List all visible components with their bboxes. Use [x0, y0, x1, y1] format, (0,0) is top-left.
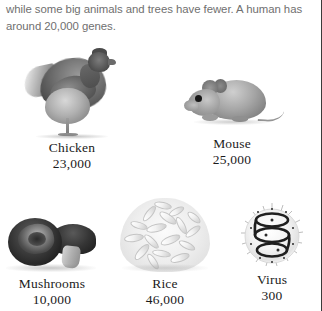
rice-photo	[116, 194, 214, 276]
figure-item-mouse: Mouse 25,000	[180, 70, 284, 167]
figure-item-virus: Virus 300	[236, 200, 308, 303]
figure-item-rice: Rice 46,000	[116, 194, 214, 307]
mushrooms-value: 10,000	[4, 292, 100, 308]
chicken-beak	[108, 59, 116, 65]
rice-label: Rice	[116, 276, 214, 292]
virus-value: 300	[236, 288, 308, 304]
mouse-photo	[180, 70, 284, 136]
rice-shadow	[122, 264, 208, 272]
chicken-shadow	[36, 134, 108, 139]
figure-item-mushrooms: Mushrooms 10,000	[4, 206, 100, 307]
mouse-shadow	[194, 119, 270, 125]
rice-value: 46,000	[116, 292, 214, 308]
mouse-snout	[184, 100, 198, 111]
body-paragraph: while some big animals and trees have fe…	[6, 1, 306, 34]
mouse-value: 25,000	[180, 152, 284, 168]
figure-item-chicken: Chicken 23,000	[24, 52, 120, 171]
chicken-value: 23,000	[24, 156, 120, 172]
mouse-eye	[195, 95, 202, 102]
mushroom-gill-center	[28, 232, 46, 246]
mushrooms-label: Mushrooms	[4, 276, 100, 292]
virus-envelope	[245, 209, 299, 263]
chicken-photo	[24, 52, 120, 140]
mushrooms-photo	[4, 206, 100, 276]
virus-diagram	[236, 200, 308, 272]
virus-label: Virus	[236, 272, 308, 288]
mouse-label: Mouse	[180, 136, 284, 152]
chicken-head	[88, 52, 110, 72]
figure-page: while some big animals and trees have fe…	[0, 0, 322, 311]
chicken-label: Chicken	[24, 140, 120, 156]
mushrooms-shadow	[6, 264, 96, 272]
virus-photo	[236, 200, 308, 272]
